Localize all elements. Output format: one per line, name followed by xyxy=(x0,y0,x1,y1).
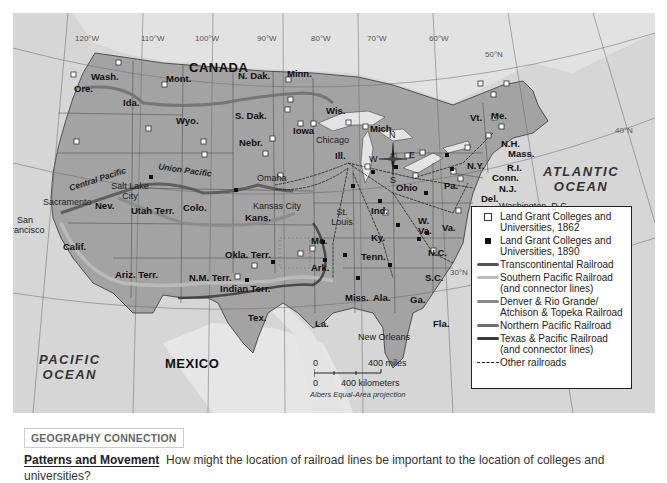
state-label: Miss. xyxy=(345,293,369,303)
state-label: Ariz. Terr. xyxy=(115,270,158,280)
ocean-label-atlantic: ATLANTIC OCEAN xyxy=(543,165,619,195)
state-label: N.Y. xyxy=(467,161,484,171)
longitude-label: 90°W xyxy=(257,35,277,43)
compass-s: S xyxy=(390,176,396,185)
state-label: Mont. xyxy=(166,74,191,84)
state-label: Vt. xyxy=(470,113,482,123)
latitude-label: 40°N xyxy=(615,127,633,135)
longitude-label: 60°W xyxy=(429,35,449,43)
state-label: N.C. xyxy=(428,248,447,258)
state-label: Ga. xyxy=(410,295,425,305)
legend-item-northern-pacific: Northern Pacific Railroad xyxy=(476,320,627,331)
state-label: Nev. xyxy=(95,201,114,211)
state-label: W. Va. xyxy=(418,216,438,235)
compass-e: E xyxy=(409,151,415,160)
state-label: Pa. xyxy=(444,181,458,191)
legend-item-1862: Land Grant Colleges and Universities, 18… xyxy=(476,211,627,233)
state-label: Conn. xyxy=(492,173,519,183)
legend-item-southern-pacific: Southern Pacific Railroad (and connector… xyxy=(476,272,627,294)
state-label: N. Dak. xyxy=(238,71,270,81)
state-label: Nebr. xyxy=(239,138,263,148)
city-label-salt-lake-city: Salt Lake City xyxy=(110,181,150,201)
state-label: Me. xyxy=(491,111,507,121)
country-label-mexico: MEXICO xyxy=(165,357,219,370)
city-label-omaha: Omaha xyxy=(257,174,287,183)
scale-bar: 0 400 miles 0 400 kilometers Albers Equa… xyxy=(303,357,413,397)
city-label-san-francisco: San Francisco xyxy=(13,215,45,235)
compass-rose: N S W E xyxy=(373,131,413,185)
state-label: N.J. xyxy=(499,184,516,194)
compass-n: N xyxy=(389,131,396,140)
state-label: N.M. Terr. xyxy=(189,273,232,283)
state-label: Iowa xyxy=(293,126,314,136)
state-label: Okla. Terr. xyxy=(225,250,271,260)
city-label-new-orleans: New Orleans xyxy=(358,333,410,342)
railroad-line-icon xyxy=(477,324,499,327)
dashed-line-icon xyxy=(477,362,499,363)
longitude-label: 110°W xyxy=(141,35,165,43)
open-square-icon xyxy=(484,213,492,221)
state-label: Mo. xyxy=(311,236,327,246)
railroad-line-icon xyxy=(477,263,499,266)
caption-title: Patterns and Movement xyxy=(24,453,159,467)
state-label: Ala. xyxy=(373,293,390,303)
ocean-label-pacific: PACIFIC OCEAN xyxy=(39,353,101,383)
compass-w: W xyxy=(369,155,378,164)
city-label-chicago: Chicago xyxy=(316,136,349,145)
state-label: Va. xyxy=(442,223,456,233)
city-label-sacramento: Sacramento xyxy=(43,198,92,207)
state-label: Kans. xyxy=(245,213,271,223)
state-label: Ind. xyxy=(371,206,388,216)
longitude-label: 100°W xyxy=(195,35,219,43)
state-label: S. Dak. xyxy=(235,111,267,121)
filled-square-icon xyxy=(485,238,491,244)
map-legend: Land Grant Colleges and Universities, 18… xyxy=(471,206,632,389)
state-label: Wyo. xyxy=(176,116,199,126)
legend-item-1890: Land Grant Colleges and Universities, 18… xyxy=(476,235,627,257)
legend-item-denver-rio-grande: Denver & Rio Grande/ Atchison & Topeka R… xyxy=(476,296,627,318)
state-label: Ida. xyxy=(123,98,139,108)
state-label: Indian Terr. xyxy=(220,284,271,294)
state-label: Ill. xyxy=(335,151,346,161)
latitude-label: 30°N xyxy=(450,269,468,277)
state-label: La. xyxy=(315,319,329,329)
state-label: Tenn. xyxy=(361,252,386,262)
latitude-label: 50°N xyxy=(485,51,503,59)
city-label-st-louis: St. Louis xyxy=(331,207,353,227)
state-label: S.C. xyxy=(425,273,443,283)
longitude-label: 120°W xyxy=(75,35,99,43)
geography-connection-tag: GEOGRAPHY CONNECTION xyxy=(24,428,184,448)
longitude-label: 80°W xyxy=(311,35,331,43)
state-label: Wash. xyxy=(91,72,119,82)
scale-bar-icon xyxy=(314,369,394,377)
railroad-line-icon xyxy=(477,337,499,340)
state-label: Ky. xyxy=(371,233,385,243)
railroad-line-icon xyxy=(477,276,499,279)
state-label: Del. xyxy=(481,194,498,204)
state-label: Colo. xyxy=(183,203,207,213)
state-label: Ore. xyxy=(74,84,93,94)
state-label: Tex. xyxy=(248,313,266,323)
state-label: Mass. xyxy=(508,149,534,159)
legend-item-texas-pacific: Texas & Pacific Railroad (and connector … xyxy=(476,333,627,355)
state-label: Ark. xyxy=(311,263,329,273)
longitude-label: 70°W xyxy=(367,35,387,43)
state-label: Minn. xyxy=(287,69,312,79)
railroad-line-icon xyxy=(477,300,499,303)
caption-question: Patterns and Movement How might the loca… xyxy=(24,452,624,483)
legend-item-other-railroads: Other railroads xyxy=(476,357,627,368)
legend-item-transcontinental: Transcontinental Railroad xyxy=(476,259,627,270)
city-label-kansas-city: Kansas City xyxy=(253,202,301,211)
state-label: Calif. xyxy=(63,242,86,252)
state-label: Fla. xyxy=(433,319,449,329)
state-label: Wis. xyxy=(326,106,345,116)
state-label: Utah Terr. xyxy=(131,206,175,216)
